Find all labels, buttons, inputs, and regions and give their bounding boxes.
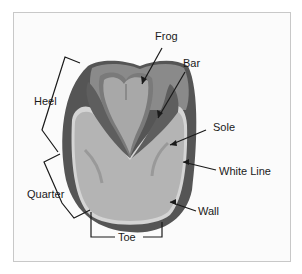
label-quarter: Quarter [27,189,64,200]
label-sole: Sole [213,122,235,133]
label-bar: Bar [183,58,200,69]
label-toe: Toe [118,232,136,243]
label-frog: Frog [155,31,178,42]
label-heel: Heel [34,96,57,107]
label-white-line: White Line [219,166,271,177]
label-wall: Wall [198,206,219,217]
hoof-illustration [0,0,302,274]
